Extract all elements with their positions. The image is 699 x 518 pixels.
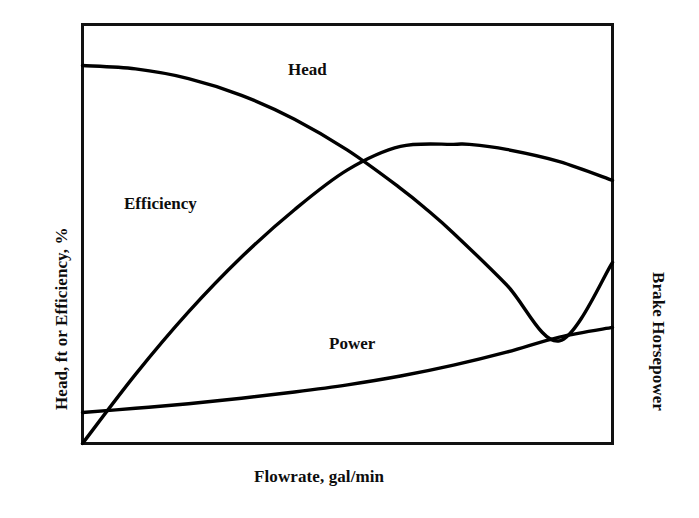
x-axis-title: Flowrate, gal/min <box>254 467 384 487</box>
chart-canvas <box>0 0 699 518</box>
pump-performance-chart: Head, ft or Efficiency, % Brake Horsepow… <box>0 0 699 518</box>
head-series-label: Head <box>288 60 327 80</box>
power-series-label: Power <box>329 334 375 354</box>
y-axis-right-title: Brake Horsepower <box>648 272 668 411</box>
y-axis-left-title: Head, ft or Efficiency, % <box>52 227 72 410</box>
plot-frame <box>83 25 613 444</box>
efficiency-series-label: Efficiency <box>124 194 197 214</box>
